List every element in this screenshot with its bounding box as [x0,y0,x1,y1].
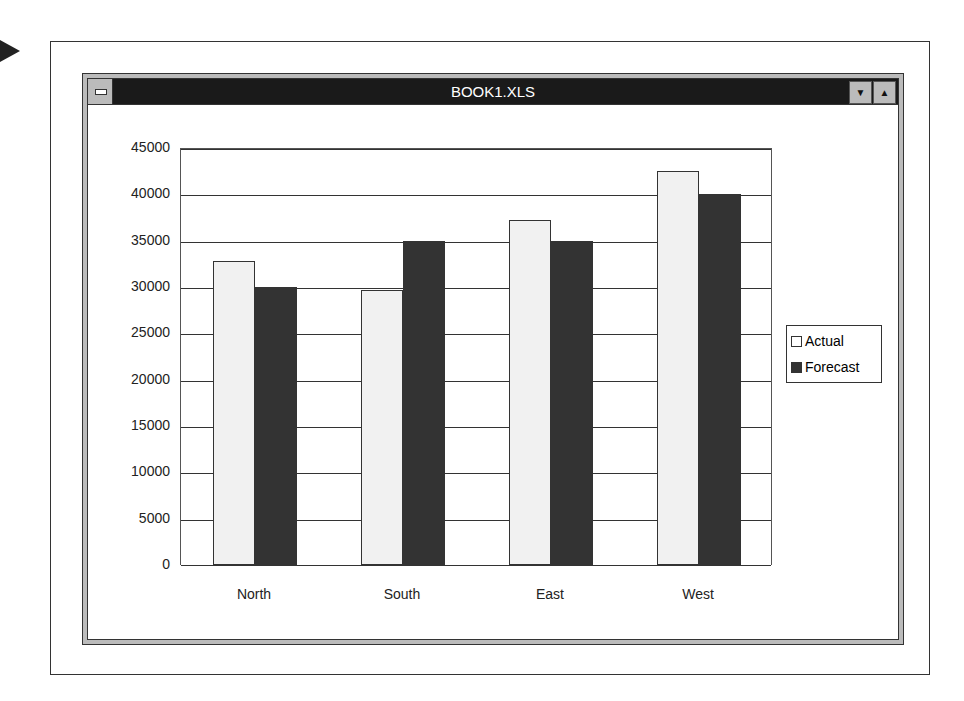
bar-actual-south[interactable] [361,290,403,565]
legend[interactable]: Actual Forecast [786,325,882,383]
bar-actual-east[interactable] [509,220,551,565]
legend-item-actual: Actual [791,333,844,349]
y-tick-label: 35000 [110,232,170,248]
x-tick-label: East [510,586,590,602]
y-tick-label: 5000 [110,510,170,526]
bar-actual-north[interactable] [213,261,255,565]
gridline [181,149,771,150]
y-tick-label: 20000 [110,371,170,387]
bar-actual-west[interactable] [657,171,699,565]
legend-item-forecast: Forecast [791,359,859,375]
bar-forecast-west[interactable] [699,194,741,565]
x-tick-label: South [362,586,442,602]
y-tick-label: 30000 [110,278,170,294]
y-tick-label: 25000 [110,324,170,340]
window-title: BOOK1.XLS [88,83,898,100]
x-tick-label: West [658,586,738,602]
y-tick-label: 0 [110,556,170,572]
title-bar[interactable]: BOOK1.XLS ▼ ▲ [88,79,898,105]
up-arrow-icon: ▲ [880,87,890,98]
actual-swatch-icon [791,336,802,347]
bar-forecast-east[interactable] [551,241,593,565]
minimize-button[interactable]: ▼ [849,81,872,104]
y-tick-label: 15000 [110,417,170,433]
y-tick-label: 45000 [110,139,170,155]
x-tick-label: North [214,586,294,602]
down-arrow-icon: ▼ [856,87,866,98]
y-tick-label: 10000 [110,463,170,479]
bar-forecast-south[interactable] [403,241,445,565]
forecast-swatch-icon [791,362,802,373]
y-tick-label: 40000 [110,185,170,201]
plot-area[interactable] [180,148,772,565]
pointer-arrow-icon [0,40,20,62]
maximize-button[interactable]: ▲ [873,81,896,104]
bar-forecast-north[interactable] [255,287,297,565]
